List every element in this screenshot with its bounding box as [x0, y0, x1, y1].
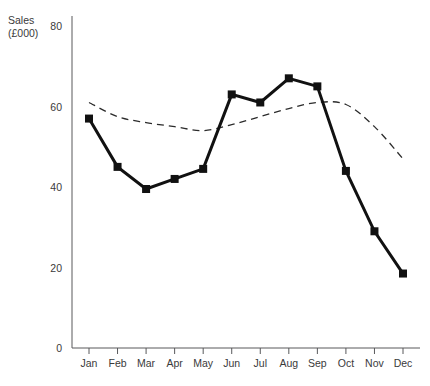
data-point-marker	[313, 82, 321, 90]
y-axis-tick-group: 020406080	[50, 20, 62, 354]
data-point-marker	[85, 115, 93, 123]
x-tick-label-jul: Jul	[254, 357, 267, 369]
y-axis-title: Sales (£000)	[8, 14, 38, 40]
trend-line-series	[89, 102, 403, 159]
data-point-marker	[399, 270, 407, 278]
x-tick-label-oct: Oct	[338, 357, 354, 369]
data-point-marker	[142, 185, 150, 193]
sales-line-chart: Sales (£000) 020406080 JanFebMarAprMayJu…	[0, 0, 430, 386]
y-tick-label: 40	[50, 181, 62, 193]
y-tick-label: 20	[50, 262, 62, 274]
data-point-marker	[370, 227, 378, 235]
data-point-marker	[228, 90, 236, 98]
x-tick-label-feb: Feb	[108, 357, 126, 369]
x-axis-tick-group: JanFebMarAprMayJunJulAugSepOctNovDec	[81, 348, 413, 369]
data-point-marker	[171, 175, 179, 183]
x-tick-label-dec: Dec	[394, 357, 413, 369]
x-tick-label-may: May	[193, 357, 214, 369]
y-tick-label: 80	[50, 20, 62, 32]
data-point-marker	[114, 163, 122, 171]
x-tick-label-apr: Apr	[166, 357, 183, 369]
data-point-marker	[199, 165, 207, 173]
x-tick-label-nov: Nov	[365, 357, 384, 369]
x-tick-label-sep: Sep	[308, 357, 327, 369]
y-tick-label: 60	[50, 101, 62, 113]
chart-plot-area: 020406080 JanFebMarAprMayJunJulAugSepOct…	[0, 0, 430, 386]
y-tick-label: 0	[56, 342, 62, 354]
x-tick-label-jun: Jun	[223, 357, 240, 369]
data-point-marker	[342, 167, 350, 175]
sales-line-series	[89, 78, 403, 273]
x-tick-label-mar: Mar	[137, 357, 156, 369]
x-tick-label-jan: Jan	[81, 357, 98, 369]
data-point-marker	[285, 74, 293, 82]
sales-data-point-markers	[85, 74, 407, 277]
x-tick-label-aug: Aug	[279, 357, 298, 369]
data-point-marker	[256, 98, 264, 106]
